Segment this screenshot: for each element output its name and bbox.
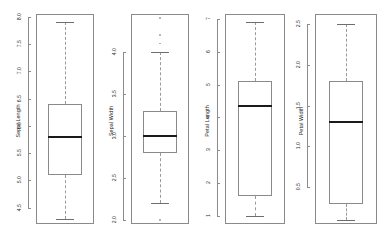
boxplot-panel: Sepal Length4.55.05.56.06.57.07.58.0 — [0, 0, 95, 242]
lower-whisker — [346, 204, 347, 220]
y-axis-tick-label: 2.0 — [112, 213, 117, 225]
y-axis-tick — [123, 178, 126, 179]
y-axis-tick-label: 7.0 — [17, 65, 22, 77]
y-axis-tick — [28, 180, 31, 181]
y-axis-line — [28, 17, 29, 208]
median-line — [48, 136, 82, 138]
upper-whisker-cap — [337, 24, 355, 25]
y-axis-tick-label: 3 — [206, 144, 211, 156]
y-axis-tick — [28, 153, 31, 154]
y-axis-tick — [28, 17, 31, 18]
median-line — [143, 135, 177, 137]
upper-whisker-cap — [56, 22, 74, 23]
y-axis-tick-label: 1.5 — [296, 99, 301, 111]
y-axis-tick — [28, 126, 31, 127]
y-axis-tick — [123, 220, 126, 221]
y-axis-tick-label: 2 — [206, 177, 211, 189]
y-axis-tick — [28, 71, 31, 72]
upper-whisker-cap — [246, 22, 264, 23]
upper-whisker — [346, 24, 347, 81]
y-axis-tick — [217, 19, 220, 20]
lower-whisker — [160, 153, 161, 203]
y-axis-tick-label: 3.0 — [112, 129, 117, 141]
lower-whisker-cap — [246, 216, 264, 217]
y-axis-tick — [307, 24, 310, 25]
y-axis-tick — [28, 99, 31, 100]
outlier-point — [159, 34, 161, 36]
iqr-box — [238, 81, 272, 196]
iqr-box — [48, 104, 82, 175]
upper-whisker-cap — [151, 52, 169, 53]
y-axis-tick-label: 6.0 — [17, 119, 22, 131]
outlier-point — [159, 43, 161, 45]
y-axis-tick — [217, 52, 220, 53]
y-axis-tick-label: 2.5 — [112, 171, 117, 183]
iqr-box — [143, 111, 177, 153]
y-axis-tick-label: 8.0 — [17, 10, 22, 22]
boxplot-figure: Sepal Length4.55.05.56.06.57.07.58.0Sepa… — [0, 0, 382, 242]
y-axis-tick — [217, 183, 220, 184]
y-axis-tick — [217, 85, 220, 86]
y-axis-tick-label: 6.5 — [17, 92, 22, 104]
y-axis-tick-label: 3.5 — [112, 87, 117, 99]
y-axis-tick — [28, 208, 31, 209]
y-axis-tick-label: 4.5 — [17, 201, 22, 213]
iqr-box — [329, 81, 363, 204]
y-axis-tick-label: 6 — [206, 45, 211, 57]
upper-whisker — [255, 22, 256, 81]
y-axis-tick — [123, 136, 126, 137]
outlier-point — [159, 17, 161, 19]
lower-whisker-cap — [337, 220, 355, 221]
lower-whisker-cap — [151, 203, 169, 204]
outlier-point — [159, 219, 161, 221]
lower-whisker-cap — [56, 219, 74, 220]
median-line — [329, 121, 363, 123]
upper-whisker — [65, 22, 66, 104]
y-axis-tick-label: 5.0 — [17, 174, 22, 186]
y-axis-tick — [28, 44, 31, 45]
y-axis-tick-label: 5 — [206, 78, 211, 90]
upper-whisker — [160, 52, 161, 111]
y-axis-tick-label: 2.0 — [296, 58, 301, 70]
y-axis-tick-label: 1 — [206, 209, 211, 221]
y-axis-tick-label: 5.5 — [17, 147, 22, 159]
y-axis-tick-label: 1.0 — [296, 140, 301, 152]
y-axis-tick-label: 7.5 — [17, 38, 22, 50]
y-axis-tick — [307, 65, 310, 66]
y-axis-tick — [217, 216, 220, 217]
y-axis-tick-label: 0.5 — [296, 181, 301, 193]
y-axis-tick — [307, 187, 310, 188]
lower-whisker — [65, 175, 66, 219]
y-axis-tick — [217, 117, 220, 118]
y-axis-tick — [123, 94, 126, 95]
y-axis-tick — [217, 150, 220, 151]
y-axis-tick — [307, 106, 310, 107]
lower-whisker — [255, 196, 256, 216]
y-axis-tick-label: 7 — [206, 13, 211, 25]
median-line — [238, 105, 272, 107]
y-axis-tick — [123, 52, 126, 53]
y-axis-tick-label: 4.0 — [112, 45, 117, 57]
boxplot-panel: Petal Width0.51.01.52.02.5 — [285, 0, 382, 242]
boxplot-panel: Petal Length1234567 — [190, 0, 285, 242]
boxplot-panel: Sepal Width2.02.53.03.54.0 — [95, 0, 190, 242]
y-axis-tick — [307, 146, 310, 147]
y-axis-tick-label: 4 — [206, 111, 211, 123]
y-axis-tick-label: 2.5 — [296, 17, 301, 29]
